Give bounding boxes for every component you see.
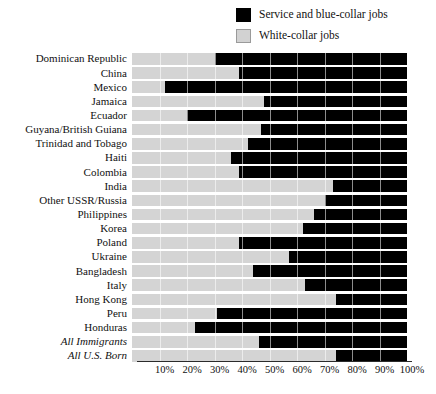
gridline	[352, 251, 353, 263]
bar-segment-white-collar	[132, 53, 215, 65]
gridline	[325, 152, 326, 164]
x-tick-label: 20%	[182, 365, 201, 376]
axis-line	[137, 361, 412, 362]
gridline	[270, 81, 271, 93]
x-tick-label: 70%	[320, 365, 339, 376]
category-label: China	[0, 68, 132, 79]
gridline	[380, 180, 381, 192]
gridline	[352, 209, 353, 221]
gridline	[187, 81, 188, 93]
category-label: Ukraine	[0, 251, 132, 262]
gridline	[325, 53, 326, 65]
gridline	[325, 166, 326, 178]
bar-stack	[132, 294, 407, 306]
bar-segment-white-collar	[132, 265, 253, 277]
chart-row: Trinidad and Tobago	[0, 137, 436, 151]
chart-row: Mexico	[0, 80, 436, 94]
category-label: Other USSR/Russia	[0, 195, 132, 206]
x-tick-label: 80%	[347, 365, 366, 376]
bar-segment-white-collar	[132, 110, 187, 122]
gridline	[380, 336, 381, 348]
gridline	[297, 251, 298, 263]
gridline	[352, 81, 353, 93]
gridline	[297, 138, 298, 150]
chart-row: Colombia	[0, 165, 436, 179]
category-label: Dominican Republic	[0, 53, 132, 64]
chart-row: Korea	[0, 222, 436, 236]
gridline	[380, 124, 381, 136]
gridline	[352, 223, 353, 235]
gridline	[270, 336, 271, 348]
category-label: Hong Kong	[0, 294, 132, 305]
gridline	[380, 81, 381, 93]
gridline	[352, 237, 353, 249]
chart-row: Hong Kong	[0, 292, 436, 306]
gridline	[325, 322, 326, 334]
gridline	[270, 265, 271, 277]
category-label: Italy	[0, 280, 132, 291]
gridline	[380, 138, 381, 150]
gridline	[352, 152, 353, 164]
chart-row: Haiti	[0, 151, 436, 165]
gridline	[297, 322, 298, 334]
chart-row: Other USSR/Russia	[0, 193, 436, 207]
bar-segment-white-collar	[132, 237, 239, 249]
gridline	[325, 81, 326, 93]
bar-stack	[132, 350, 407, 362]
chart-row: China	[0, 66, 436, 80]
gridline	[187, 110, 188, 122]
bar-stack	[132, 110, 407, 122]
gridline	[325, 223, 326, 235]
gridline	[380, 279, 381, 291]
x-tick-label: 100%	[400, 365, 425, 376]
bar-segment-white-collar	[132, 81, 165, 93]
gridline	[352, 294, 353, 306]
category-label: All U.S. Born	[0, 350, 132, 361]
category-label: Philippines	[0, 209, 132, 220]
gridline	[380, 308, 381, 320]
category-label: Trinidad and Tobago	[0, 138, 132, 149]
chart-row: Honduras	[0, 321, 436, 335]
gridline	[325, 336, 326, 348]
x-tick-label: 40%	[237, 365, 256, 376]
legend-item-white-collar: White-collar jobs	[236, 27, 436, 45]
gridline	[352, 96, 353, 108]
bar-segment-white-collar	[132, 67, 239, 79]
bar-segment-white-collar	[132, 180, 333, 192]
bar-stack	[132, 209, 407, 221]
bar-segment-white-collar	[132, 223, 303, 235]
gridline	[242, 322, 243, 334]
bar-stack	[132, 308, 407, 320]
category-label: All Immigrants	[0, 336, 132, 347]
chart-row: Italy	[0, 278, 436, 292]
gridline	[297, 124, 298, 136]
bar-stack	[132, 67, 407, 79]
gridline	[297, 110, 298, 122]
bar-stack	[132, 53, 407, 65]
gridline	[325, 138, 326, 150]
gridline	[215, 53, 216, 65]
chart-row: India	[0, 179, 436, 193]
x-tick-label: 10%	[155, 365, 174, 376]
bar-segment-white-collar	[132, 322, 195, 334]
stacked-bar-chart: Dominican RepublicChinaMexicoJamaicaEcua…	[0, 52, 436, 363]
gridline	[242, 308, 243, 320]
gridline	[297, 81, 298, 93]
gridline	[380, 294, 381, 306]
legend-item-service-blue-collar: Service and blue-collar jobs	[236, 6, 436, 24]
bar-segment-white-collar	[132, 336, 259, 348]
x-tick-label: 30%	[210, 365, 229, 376]
gridline	[297, 237, 298, 249]
gridline	[352, 279, 353, 291]
chart-row: All Immigrants	[0, 335, 436, 349]
gridline	[352, 138, 353, 150]
bar-stack	[132, 152, 407, 164]
gridline	[352, 166, 353, 178]
gridline	[380, 350, 381, 362]
category-label: Poland	[0, 237, 132, 248]
gridline	[270, 138, 271, 150]
gridline	[325, 96, 326, 108]
gridline	[325, 209, 326, 221]
bar-stack	[132, 124, 407, 136]
gridline	[325, 110, 326, 122]
